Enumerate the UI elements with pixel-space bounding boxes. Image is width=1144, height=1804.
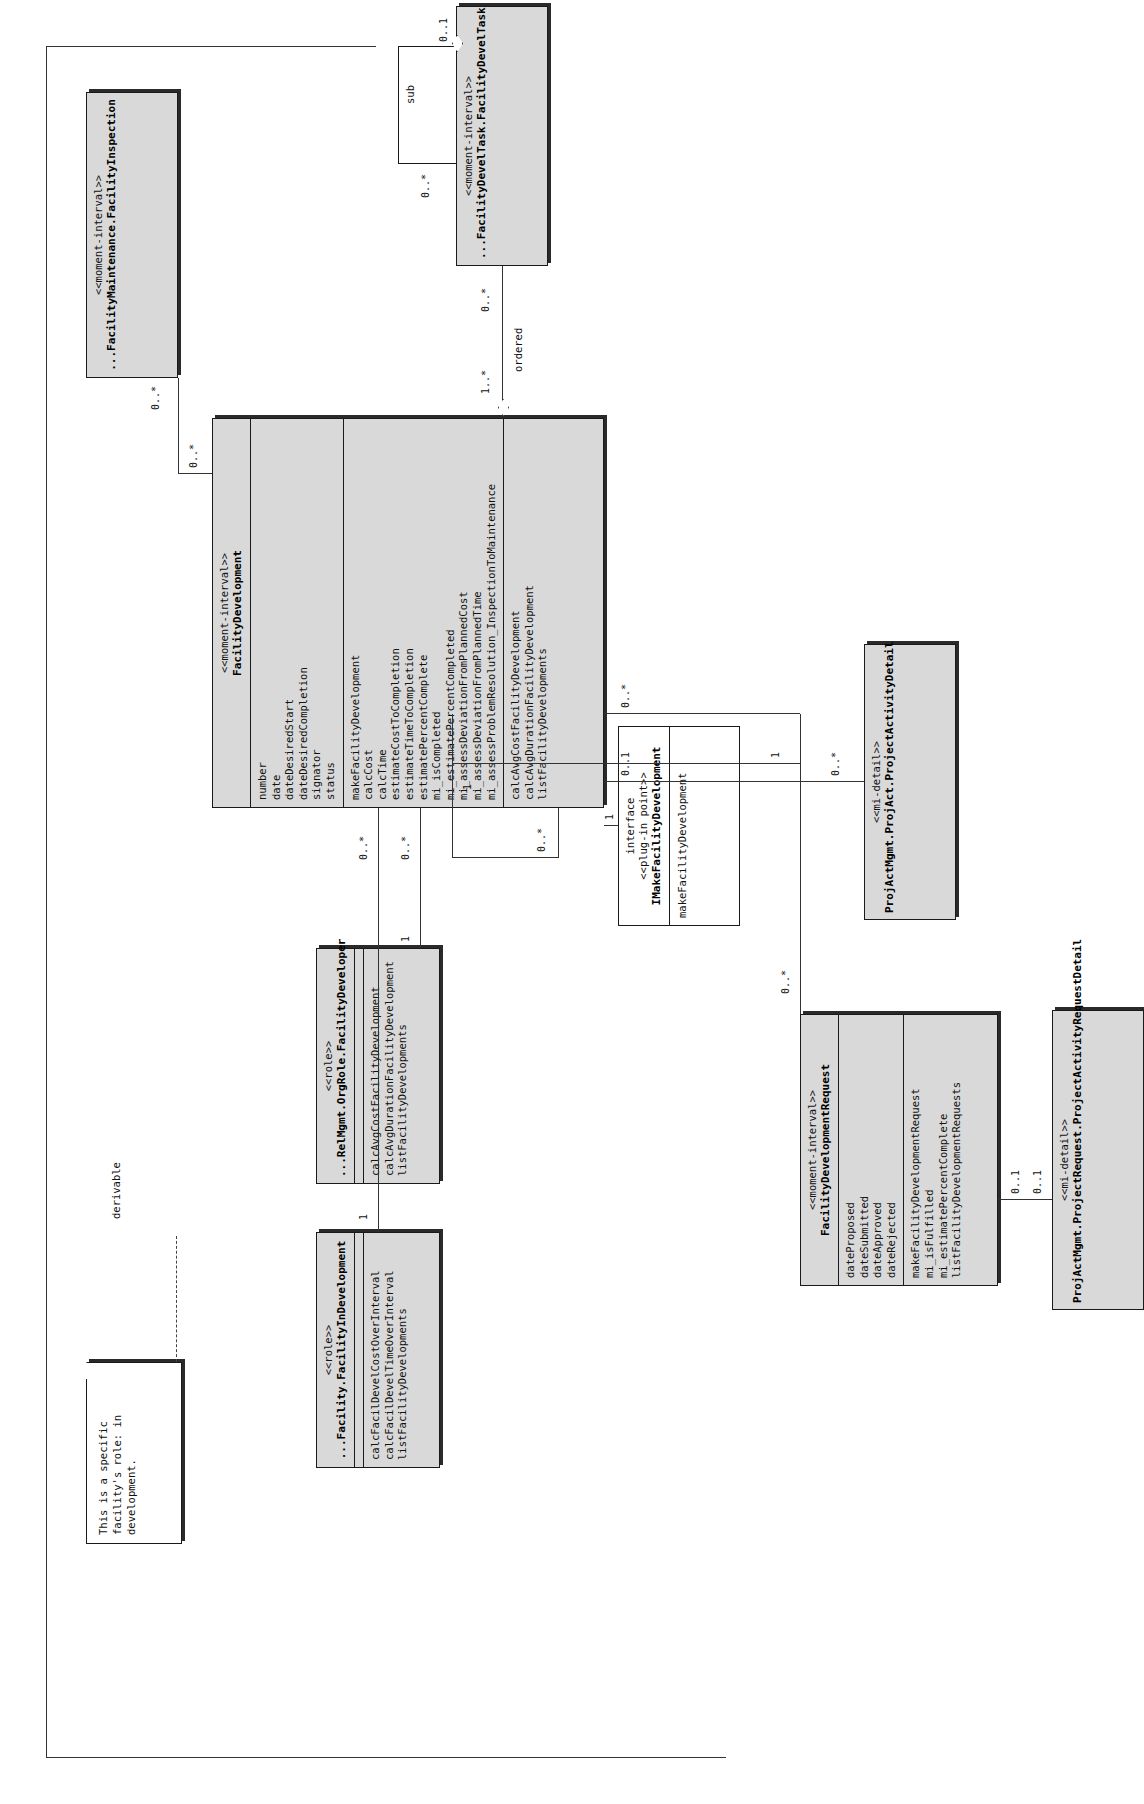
assoc-fplanner-vertical bbox=[452, 857, 558, 858]
interface-stereotype: <<plug-in point>> bbox=[637, 733, 650, 919]
multiplicity-fd-fid: 0..* bbox=[358, 836, 370, 860]
assoc-fd-inspection-vertical bbox=[178, 473, 212, 474]
class-operations: makeFacilityDevelopment calcCost calcTim… bbox=[343, 419, 504, 807]
class-project-activity-request-detail[interactable]: <<mi-detail>> ProjActMgmt.ProjectRequest… bbox=[1052, 1010, 1144, 1310]
class-project-activity-detail[interactable]: <<mi-detail>> ProjActMgmt.ProjAct.Projec… bbox=[864, 644, 956, 920]
class-stereotype: <<moment-interval>> bbox=[462, 13, 475, 259]
class-facility-in-development[interactable]: <<role>> ...Facility.FacilityInDevelopme… bbox=[316, 1232, 440, 1468]
assoc-fd-pad-vertical bbox=[604, 781, 864, 782]
sub-association-loop bbox=[398, 46, 456, 164]
multiplicity-task-ordered: 1..* bbox=[480, 370, 492, 394]
multiplicity-iface-fd: 1 bbox=[604, 814, 616, 820]
frame-left-line bbox=[46, 1757, 726, 1758]
multiplicity-req-fd: 0..* bbox=[780, 970, 792, 994]
operation: listFacilityDevelopmentRequests bbox=[950, 1022, 964, 1278]
operation: calcTime bbox=[376, 426, 390, 800]
assoc-fdev-fd bbox=[420, 808, 421, 948]
class-stereotype: <<role>> bbox=[322, 1239, 335, 1461]
class-operations-derived: calcAvgCostFacilityDevelopment calcAvgDu… bbox=[503, 419, 555, 807]
class-stereotype: <<mi-detail>> bbox=[1058, 1017, 1071, 1303]
operation: mi_isCompleted bbox=[430, 426, 444, 800]
class-name: ProjActMgmt.ProjAct.ProjectActivityDetai… bbox=[883, 651, 897, 913]
operation: mi_assessProblemResolution_InspectionToM… bbox=[485, 426, 499, 800]
operation: mi_assessDeviationFromPlannedCost bbox=[457, 426, 471, 800]
class-facility-development[interactable]: <<moment-interval>> FacilityDevelopment … bbox=[212, 418, 604, 808]
operation: calcAvgDurationFacilityDevelopment bbox=[383, 956, 397, 1176]
class-header: <<moment-interval>> ...FacilityDevelTask… bbox=[457, 7, 494, 265]
class-operations: calcAvgCostFacilityDevelopment calcAvgDu… bbox=[363, 949, 415, 1183]
class-header: <<role>> ...Facility.FacilityInDevelopme… bbox=[317, 1233, 355, 1467]
multiplicity-fd-req: 0..* bbox=[620, 684, 632, 708]
multiplicity-prd-req: 0..1 bbox=[1032, 1170, 1044, 1194]
class-stereotype: <<moment-interval>> bbox=[218, 425, 231, 801]
operation: estimateCostToCompletion bbox=[389, 426, 403, 800]
class-operations: calcFacilDevelCostOverInterval calcFacil… bbox=[363, 1233, 415, 1467]
class-facility-inspection[interactable]: <<moment-interval>> ...FacilityMaintenan… bbox=[86, 92, 178, 378]
operation: makeFacilityDevelopment bbox=[349, 426, 363, 800]
class-name: FacilityDevelopmentRequest bbox=[819, 1021, 833, 1279]
class-name: ...FacilityMaintenance.FacilityInspectio… bbox=[105, 99, 119, 371]
label-sub: sub bbox=[404, 85, 417, 104]
operation: mi_estimatePercentComplete bbox=[937, 1022, 951, 1278]
interface-name: IMakeFacilityDevelopment bbox=[650, 733, 664, 919]
assoc-fd-request-vertical bbox=[604, 713, 800, 714]
operation: calcAvgCostFacilityDevelopment bbox=[369, 956, 383, 1176]
class-name: ...FacilityDevelTask.FacilityDevelTask bbox=[475, 13, 489, 259]
operation: estimatePercentComplete bbox=[417, 426, 431, 800]
label-derivable: derivable bbox=[110, 1162, 123, 1219]
attribute: dateDesiredStart bbox=[283, 426, 297, 800]
multiplicity-fid-fd: 1 bbox=[358, 1214, 370, 1220]
multiplicity-fd-fplan: 0..* bbox=[536, 828, 548, 852]
note-fold-icon bbox=[86, 1362, 103, 1379]
multiplicity-fd-insp: 0..* bbox=[188, 444, 200, 468]
operation: makeFacilityDevelopmentRequest bbox=[909, 1022, 923, 1278]
operation: makeFacilityDevelopment bbox=[676, 734, 690, 918]
class-stereotype: <<moment-interval>> bbox=[92, 99, 105, 371]
assoc-fplanner-top bbox=[452, 714, 453, 858]
attribute: dateApproved bbox=[871, 1022, 885, 1278]
operation: calcAvgDurationFacilityDevelopment bbox=[523, 426, 537, 800]
multiplicity-task-sub-one: 0..1 bbox=[438, 18, 450, 42]
multiplicity-req-prd: 0..1 bbox=[1010, 1170, 1022, 1194]
class-header: <<moment-interval>> FacilityDevelopmentR… bbox=[801, 1015, 839, 1285]
multiplicity-fd-pad: 0..1 bbox=[620, 752, 632, 776]
class-facility-develtask[interactable]: <<moment-interval>> ...FacilityDevelTask… bbox=[456, 6, 548, 266]
class-stereotype: <<mi-detail>> bbox=[870, 651, 883, 913]
attribute: date bbox=[270, 426, 284, 800]
multiplicity-fd-task: 0..* bbox=[480, 288, 492, 312]
multiplicity-fdev-fd: 1 bbox=[400, 936, 412, 942]
class-name: ...RelMgmt.OrgRole.FacilityDeveloper bbox=[335, 955, 349, 1177]
interface-make-facility-development[interactable]: interface <<plug-in point>> IMakeFacilit… bbox=[618, 726, 740, 926]
operation: estimateTimeToCompletion bbox=[403, 426, 417, 800]
class-header: <<mi-detail>> ProjActMgmt.ProjectRequest… bbox=[1053, 1011, 1090, 1309]
note-text: This is a specific facility's role: in d… bbox=[96, 1371, 138, 1535]
operation: mi_isFulfilled bbox=[923, 1022, 937, 1278]
attribute: status bbox=[324, 426, 338, 800]
class-stereotype: <<moment-interval>> bbox=[806, 1021, 819, 1279]
class-attributes: dateProposed dateSubmitted dateApproved … bbox=[839, 1015, 903, 1285]
operation: calcFacilDevelTimeOverInterval bbox=[383, 1240, 397, 1460]
class-attributes: number date dateDesiredStart dateDesired… bbox=[251, 419, 343, 807]
multiplicity-req-plan: 1 bbox=[770, 752, 782, 758]
attribute: signator bbox=[310, 426, 324, 800]
class-header: <<moment-interval>> ...FacilityMaintenan… bbox=[87, 93, 124, 377]
multiplicity-insp-fd: 0..* bbox=[150, 386, 162, 410]
operation: calcFacilDevelCostOverInterval bbox=[369, 1240, 383, 1460]
operation: listFacilityDevelopments bbox=[536, 426, 550, 800]
class-header: <<mi-detail>> ProjActMgmt.ProjAct.Projec… bbox=[865, 645, 902, 919]
multiplicity-fplan-fd: 1 bbox=[462, 784, 474, 790]
operation: mi_assessDeviationFromPlannedTime bbox=[471, 426, 485, 800]
class-attributes bbox=[355, 1233, 363, 1467]
class-header: <<role>> ...RelMgmt.OrgRole.FacilityDeve… bbox=[317, 949, 355, 1183]
assoc-fd-task bbox=[502, 266, 503, 418]
class-operations: makeFacilityDevelopmentRequest mi_isFulf… bbox=[903, 1015, 968, 1285]
class-facility-development-request[interactable]: <<moment-interval>> FacilityDevelopmentR… bbox=[800, 1014, 998, 1286]
operation: listFacilityDevelopments bbox=[396, 1240, 410, 1460]
attribute: dateDesiredCompletion bbox=[297, 426, 311, 800]
class-name: FacilityDevelopment bbox=[231, 425, 245, 801]
operation: mi_estimatePercentCompleted bbox=[444, 426, 458, 800]
attribute: dateRejected bbox=[885, 1022, 899, 1278]
assoc-fd-inspection-horizontal bbox=[178, 378, 179, 474]
assoc-fid-fd bbox=[378, 808, 379, 1232]
